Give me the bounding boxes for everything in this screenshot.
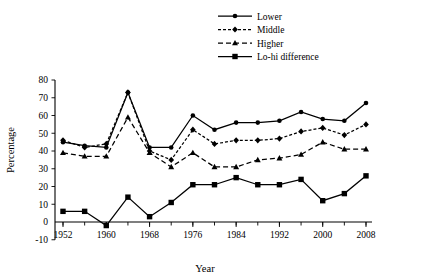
data-point-marker xyxy=(147,214,152,219)
legend-marker-sample xyxy=(232,26,238,32)
x-axis-tick-labels: 19521960196819761984199220002008 xyxy=(54,230,376,240)
x-tick-label: 2008 xyxy=(357,230,376,240)
legend-item-lo-hi-difference[interactable]: Lo-hi difference xyxy=(218,52,319,62)
legend-item-middle[interactable]: Middle xyxy=(218,25,284,35)
data-point-marker xyxy=(342,119,347,124)
data-point-marker xyxy=(342,132,348,138)
series-line xyxy=(63,92,366,159)
data-point-marker xyxy=(277,182,282,187)
data-point-marker xyxy=(320,117,325,122)
data-point-marker xyxy=(82,209,87,214)
y-axis-title: Percentage xyxy=(5,127,16,173)
data-point-marker xyxy=(320,125,326,131)
data-point-marker xyxy=(212,182,217,187)
y-tick-label: 10 xyxy=(39,200,49,210)
y-tick-label: 40 xyxy=(39,146,49,156)
data-point-marker xyxy=(298,151,304,156)
y-tick-label: 50 xyxy=(39,129,49,139)
data-point-marker xyxy=(125,194,130,199)
data-point-marker xyxy=(168,157,174,163)
x-tick-label: 1984 xyxy=(227,230,246,240)
data-point-marker xyxy=(212,141,218,147)
data-point-marker xyxy=(277,135,283,141)
x-tick-label: 1992 xyxy=(270,230,289,240)
series-line xyxy=(63,92,366,147)
data-point-marker xyxy=(255,157,261,162)
data-point-marker xyxy=(234,120,239,125)
data-point-marker xyxy=(190,150,196,155)
line-chart: -1001020304050607080 1952196019681976198… xyxy=(0,0,427,278)
data-point-marker xyxy=(212,127,217,132)
data-point-marker xyxy=(255,182,260,187)
data-point-marker xyxy=(299,110,304,115)
data-point-marker xyxy=(255,137,261,143)
x-tick-label: 1968 xyxy=(140,230,159,240)
legend-marker-sample xyxy=(233,14,238,19)
chart-figure: -1001020304050607080 1952196019681976198… xyxy=(0,0,427,278)
data-point-marker xyxy=(364,101,369,106)
data-point-marker xyxy=(125,114,131,119)
x-tick-label: 1976 xyxy=(183,230,202,240)
data-point-marker xyxy=(342,191,347,196)
series-lo-hi-difference xyxy=(60,173,368,228)
legend-label: Lo-hi difference xyxy=(257,52,319,62)
data-point-marker xyxy=(298,128,304,134)
data-point-marker xyxy=(125,89,131,95)
data-point-marker xyxy=(255,120,260,125)
chart-legend: LowerMiddleHigherLo-hi difference xyxy=(218,12,319,63)
data-point-marker xyxy=(298,177,303,182)
data-point-marker xyxy=(60,209,65,214)
y-axis-tick-labels: -1001020304050607080 xyxy=(35,75,48,245)
data-point-marker xyxy=(277,119,282,124)
data-point-marker xyxy=(233,175,238,180)
data-point-marker xyxy=(168,164,174,169)
data-point-marker xyxy=(363,121,369,127)
y-tick-label: 60 xyxy=(39,111,49,121)
y-tick-label: 20 xyxy=(39,182,49,192)
legend-label: Lower xyxy=(257,12,283,22)
data-point-marker xyxy=(363,173,368,178)
data-point-marker xyxy=(320,198,325,203)
data-point-marker xyxy=(169,145,174,150)
y-tick-label: 80 xyxy=(39,75,49,85)
data-point-marker xyxy=(191,113,196,118)
x-axis-title: Year xyxy=(195,263,215,274)
data-series-group xyxy=(60,89,369,228)
legend-label: Higher xyxy=(257,39,284,49)
legend-label: Middle xyxy=(257,25,284,35)
axis-tick-marks xyxy=(52,80,367,240)
data-point-marker xyxy=(104,223,109,228)
legend-item-lower[interactable]: Lower xyxy=(218,12,283,22)
data-point-marker xyxy=(169,200,174,205)
y-tick-label: 30 xyxy=(39,164,49,174)
y-tick-label: 0 xyxy=(43,217,48,227)
data-point-marker xyxy=(60,150,66,155)
y-tick-label: 70 xyxy=(39,93,49,103)
series-middle xyxy=(60,89,369,163)
legend-item-higher[interactable]: Higher xyxy=(218,39,284,49)
x-tick-label: 1952 xyxy=(54,230,73,240)
x-tick-label: 1960 xyxy=(97,230,116,240)
data-point-marker xyxy=(320,139,326,144)
x-tick-label: 2000 xyxy=(313,230,332,240)
data-point-marker xyxy=(233,137,239,143)
legend-marker-sample xyxy=(232,54,237,59)
data-point-marker xyxy=(190,182,195,187)
y-tick-label: -10 xyxy=(35,235,48,245)
